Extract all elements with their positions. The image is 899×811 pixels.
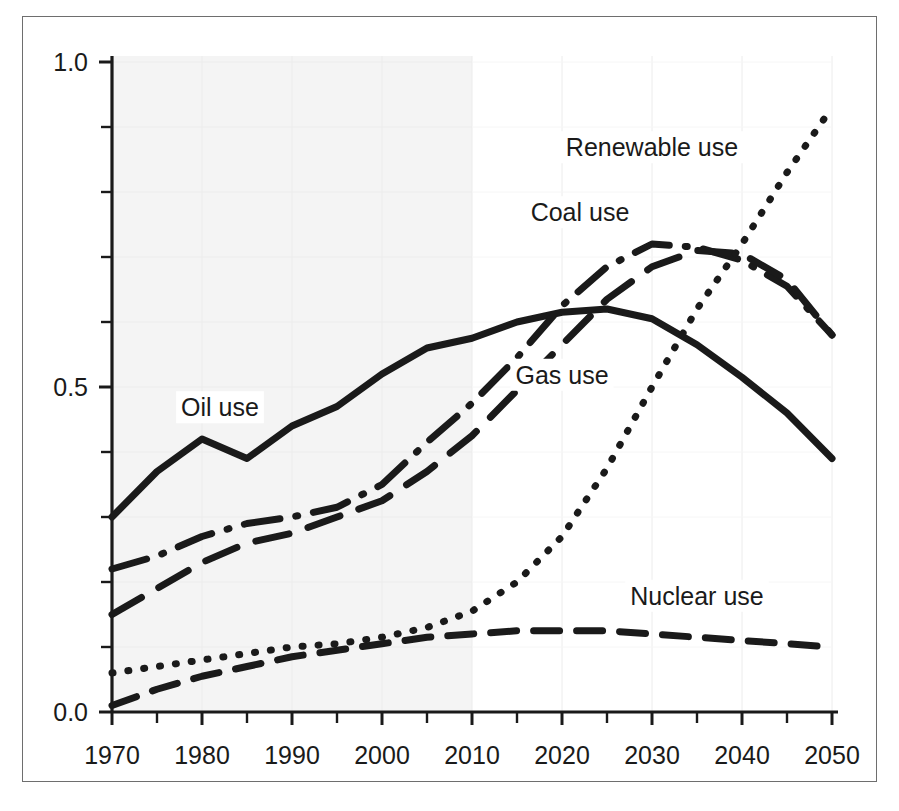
x-tick-label: 1980 xyxy=(174,741,230,769)
x-tick-label: 2010 xyxy=(444,741,500,769)
series-label-renewable-use: Renewable use xyxy=(566,133,738,161)
x-tick-label: 2020 xyxy=(534,741,590,769)
series-label-oil-use: Oil use xyxy=(181,393,259,421)
series-label-nuclear-use: Nuclear use xyxy=(630,582,763,610)
series-label-coal-use: Coal use xyxy=(531,198,630,226)
y-tick-label: 1.0 xyxy=(53,48,88,76)
y-tick-label: 0.0 xyxy=(53,698,88,726)
line-chart-plot: 0.00.51.01970198019902000201020202030204… xyxy=(0,0,899,811)
chart-figure: 0.00.51.01970198019902000201020202030204… xyxy=(0,0,899,811)
x-tick-label: 1970 xyxy=(84,741,140,769)
y-tick-label: 0.5 xyxy=(53,373,88,401)
x-tick-label: 1990 xyxy=(264,741,320,769)
x-tick-label: 2000 xyxy=(354,741,410,769)
x-tick-label: 2030 xyxy=(624,741,680,769)
series-label-gas-use: Gas use xyxy=(515,361,608,389)
x-tick-label: 2040 xyxy=(714,741,770,769)
x-tick-label: 2050 xyxy=(804,741,860,769)
